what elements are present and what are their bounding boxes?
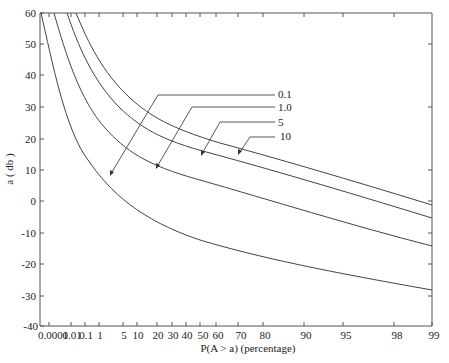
x-tick-label: 95 [341,329,353,341]
y-tick-label: 0 [31,195,37,207]
x-tick: 90 [301,13,313,341]
x-tick-label: 30 [168,329,180,341]
x-tick-label: 80 [260,329,272,341]
x-tick-label: 1 [97,329,103,341]
x-tick: 98 [392,13,404,341]
y-tick-label: 30 [25,101,37,113]
x-tick: 10 [133,13,145,341]
y-tick-label: 50 [25,38,37,50]
y-tick-label: 10 [25,164,37,176]
x-tick: 30 [168,13,180,341]
x-tick: 0.01 [62,13,81,341]
curve-10 [76,13,432,205]
x-tick: 0.1 [79,13,93,341]
legend-label: 10 [280,130,292,142]
curve-1.0 [54,13,432,246]
y-tick: 50 [25,38,44,50]
x-axis: 0.0001 0.01 0.1 1 5 10 20 30 40 50 60 70… [38,13,440,355]
legend-item-0.1: 0.1 [110,88,292,176]
x-tick-label: 20 [153,329,165,341]
x-tick-label: 10 [133,329,145,341]
y-tick: -30 [21,290,44,302]
x-tick: 50 [198,13,210,341]
x-tick-label: 0.1 [79,329,93,341]
y-tick-label: -10 [21,227,36,239]
x-tick-label: 98 [392,329,404,341]
x-tick: 60 [213,13,225,341]
curve-0.1 [41,13,432,290]
y-tick-label: -20 [21,258,36,270]
x-tick-label: 5 [121,329,127,341]
y-tick: -20 [21,258,44,270]
y-tick-label: 60 [25,7,37,19]
legend-label: 1.0 [278,101,292,113]
legend-item-1.0: 1.0 [156,101,292,169]
legend-label: 0.1 [278,88,292,100]
x-tick: 99 [429,322,441,341]
x-tick: 5 [121,13,127,341]
x-tick-label: 60 [213,329,225,341]
x-axis-title: P(A > a) (percentage) [200,342,295,355]
y-tick: 20 [25,133,44,145]
x-tick: 0.0001 [38,13,68,341]
legend-item-10: 10 [238,130,292,155]
legend-item-5: 5 [201,116,284,156]
x-tick-label: 70 [236,329,248,341]
legend: 0.1 1.0 5 10 [110,88,292,176]
x-tick-label: 90 [301,329,313,341]
y-tick-label: -40 [23,320,38,332]
curves [41,13,432,290]
x-tick-label: 99 [429,329,441,341]
legend-label: 5 [278,116,284,128]
y-tick: 0 [31,195,45,207]
curve-5 [67,13,432,218]
y-tick-label: 20 [25,133,37,145]
x-tick: 95 [341,13,353,341]
x-tick-label: 40 [182,329,194,341]
x-tick-label: 50 [198,329,210,341]
y-tick-label: 40 [25,69,37,81]
y-axis-title: a ( db ) [3,153,16,185]
y-tick: -10 [21,227,44,239]
x-tick: 70 [236,13,248,341]
x-tick: 80 [260,13,272,341]
x-tick: 20 [153,13,165,341]
chart: 60 50 40 30 20 10 0 -10 -20 -30 -40 a ( … [0,0,449,363]
y-tick-label: -30 [21,290,36,302]
x-tick: 40 [182,13,194,341]
y-tick: 40 [25,69,44,81]
y-tick: 10 [25,164,44,176]
y-tick: 30 [25,101,44,113]
